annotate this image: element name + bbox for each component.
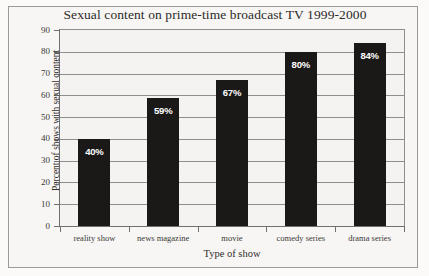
x-axis-tick: [129, 227, 130, 232]
gridline: [60, 52, 404, 53]
bar: 40%: [78, 139, 110, 226]
x-axis-category-label: reality show: [60, 233, 129, 243]
x-axis-tick: [60, 227, 61, 232]
bar-value-label: 67%: [216, 87, 248, 98]
bar: 67%: [216, 80, 248, 226]
x-axis-tick: [198, 227, 199, 232]
x-axis-category-label: drama series: [335, 233, 404, 243]
gridline: [60, 74, 404, 75]
x-axis-tick: [404, 227, 405, 232]
chart-title: Sexual content on prime-time broadcast T…: [40, 7, 390, 23]
chart-figure: Sexual content on prime-time broadcast T…: [0, 0, 429, 276]
bar-value-label: 59%: [147, 105, 179, 116]
y-axis-tick: [54, 30, 60, 31]
plot-area: 40%59%67%80%84%: [60, 30, 404, 226]
y-axis-title-wrapper: Percent of shows with sexual content: [30, 30, 40, 226]
x-axis-tick: [266, 227, 267, 232]
x-axis-tick: [335, 227, 336, 232]
bar: 84%: [354, 43, 386, 226]
y-axis-tick: [54, 204, 60, 205]
x-axis-category-label: news magazine: [129, 233, 198, 243]
bar-value-label: 80%: [285, 59, 317, 70]
x-axis-category-label: movie: [198, 233, 267, 243]
bar: 59%: [147, 98, 179, 226]
x-axis-line: [59, 226, 405, 227]
x-axis-title: Type of show: [59, 248, 405, 259]
bar-value-label: 40%: [78, 146, 110, 157]
bar: 80%: [285, 52, 317, 226]
bar-value-label: 84%: [354, 50, 386, 61]
x-axis-category-label: comedy series: [266, 233, 335, 243]
y-axis-title: Percent of shows with sexual content: [51, 51, 61, 191]
